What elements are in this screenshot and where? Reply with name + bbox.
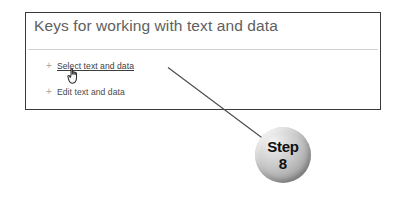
title-divider (28, 49, 378, 50)
hand-pointer-cursor-icon (66, 66, 82, 85)
callout-step-word: Step (267, 139, 298, 154)
page-title: Keys for working with text and data (34, 17, 278, 35)
callout-step-number: 8 (279, 156, 287, 171)
help-panel: Keys for working with text and data + Se… (25, 12, 381, 110)
list-item-edit-text-and-data[interactable]: + Edit text and data (46, 86, 125, 97)
plus-expander-icon[interactable]: + (46, 86, 57, 97)
link-edit-text-and-data[interactable]: Edit text and data (57, 87, 125, 97)
plus-expander-icon[interactable]: + (46, 60, 57, 71)
status-badge-step-callout: Step 8 (255, 127, 311, 183)
list-item-select-text-and-data[interactable]: + Select text and data (46, 60, 134, 71)
